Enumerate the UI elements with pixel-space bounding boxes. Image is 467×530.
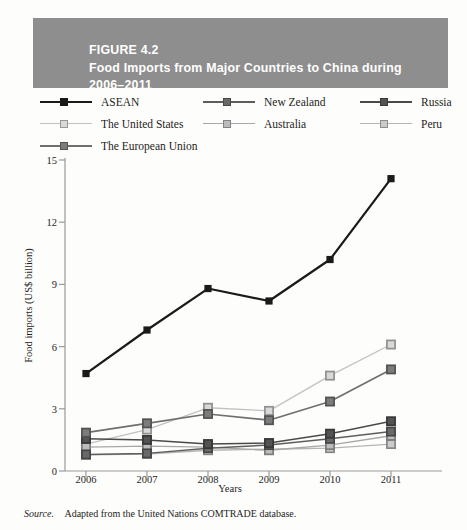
series-the-european-union bbox=[82, 365, 395, 436]
source-label: Source. bbox=[24, 508, 54, 519]
y-tick-label: 3 bbox=[31, 403, 57, 414]
x-axis-title: Years bbox=[60, 483, 400, 494]
y-tick-label: 12 bbox=[31, 217, 57, 228]
y-axis-title: Food imports (US$ billion) bbox=[23, 216, 34, 396]
chart-plot-area: 03691215 200620072008200920102011 Food i… bbox=[0, 0, 467, 530]
source-text: Adapted from the United Nations COMTRADE… bbox=[64, 508, 296, 519]
series-the-united-states bbox=[82, 340, 395, 448]
y-tick-label: 9 bbox=[31, 279, 57, 290]
y-tick-label: 15 bbox=[31, 155, 57, 166]
y-tick-label: 0 bbox=[31, 466, 57, 477]
series-asean bbox=[82, 175, 394, 377]
chart-axes bbox=[59, 158, 442, 477]
line-chart-svg bbox=[0, 0, 467, 530]
y-tick-label: 6 bbox=[31, 341, 57, 352]
figure-page: FIGURE 4.2 Food Imports from Major Count… bbox=[0, 0, 467, 530]
series-russia bbox=[82, 417, 395, 448]
source-note: Source. Adapted from the United Nations … bbox=[24, 508, 296, 519]
